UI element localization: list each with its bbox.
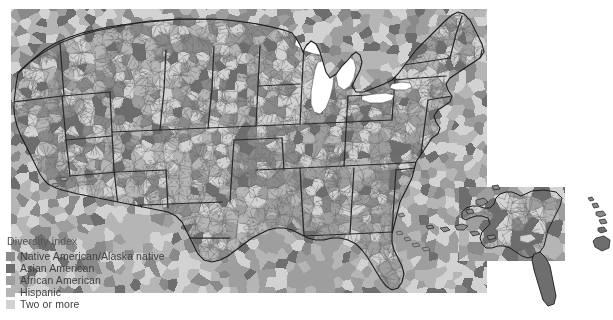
- swatch-hispanic: [6, 288, 15, 297]
- legend-item-two-or-more: Two or more: [6, 299, 165, 310]
- swatch-native-american: [6, 252, 15, 261]
- legend-item-hispanic: Hispanic: [6, 287, 165, 298]
- legend-item-native-american: Native American/Alaska native: [6, 251, 165, 262]
- map-figure: Diversity index Native American/Alaska n…: [0, 0, 613, 320]
- legend-label-native-american: Native American/Alaska native: [20, 251, 165, 262]
- legend-label-asian-american: Asian American: [20, 263, 94, 274]
- legend-label-african-american: African American: [20, 275, 101, 286]
- map-legend: Diversity index Native American/Alaska n…: [6, 236, 165, 311]
- legend-label-two-or-more: Two or more: [20, 299, 79, 310]
- legend-item-asian-american: Asian American: [6, 263, 165, 274]
- swatch-african-american: [6, 276, 15, 285]
- legend-item-african-american: African American: [6, 275, 165, 286]
- legend-label-hispanic: Hispanic: [20, 287, 61, 298]
- legend-title: Diversity index: [7, 236, 165, 247]
- swatch-two-or-more: [6, 300, 15, 309]
- swatch-asian-american: [6, 264, 15, 273]
